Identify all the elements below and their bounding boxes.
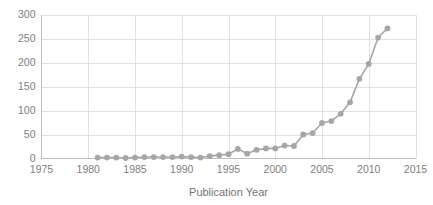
data-point: [310, 130, 316, 136]
data-point: [328, 118, 334, 124]
x-tick-label: 1995: [217, 163, 241, 175]
data-point: [95, 155, 101, 161]
data-point: [123, 155, 129, 161]
gridlines-vertical: [89, 15, 417, 159]
data-point: [104, 155, 110, 161]
x-tick-label: 1990: [170, 163, 194, 175]
data-point: [300, 132, 306, 138]
data-point: [235, 146, 241, 152]
line-chart: 050100150200250300 197519801985199019952…: [0, 0, 433, 205]
data-point: [366, 61, 372, 67]
x-tick-label: 1985: [123, 163, 147, 175]
data-point: [319, 120, 325, 126]
y-axis-tick-labels: 050100150200250300: [18, 8, 36, 164]
data-point: [170, 154, 176, 160]
y-tick-label: 50: [24, 128, 36, 140]
y-tick-label: 200: [18, 56, 36, 68]
y-tick-label: 150: [18, 80, 36, 92]
data-point: [113, 155, 119, 161]
x-axis-tick-labels: 197519801985199019952000200520102015: [30, 163, 428, 175]
data-point: [347, 99, 353, 105]
data-point: [216, 152, 222, 158]
gridlines-horizontal: [42, 16, 416, 136]
data-point: [141, 154, 147, 160]
data-point: [291, 143, 297, 149]
x-tick-label: 2005: [310, 163, 334, 175]
x-tick-label: 1975: [30, 163, 54, 175]
x-tick-label: 2000: [264, 163, 288, 175]
y-tick-label: 300: [18, 8, 36, 20]
data-point: [188, 154, 194, 160]
x-tick-label: 1980: [77, 163, 101, 175]
data-point: [179, 154, 185, 160]
x-axis-title: Publication Year: [189, 186, 268, 198]
x-tick-label: 2015: [404, 163, 428, 175]
data-point: [338, 111, 344, 117]
data-point: [357, 76, 363, 82]
data-point: [263, 146, 269, 152]
series-publications: [95, 26, 391, 161]
data-point: [198, 155, 204, 161]
data-point: [132, 155, 138, 161]
data-point: [226, 151, 232, 157]
y-tick-label: 250: [18, 32, 36, 44]
x-tick-label: 2010: [357, 163, 381, 175]
data-point: [244, 151, 250, 157]
series-line: [98, 28, 388, 158]
data-point: [254, 147, 260, 153]
chart-figure: 050100150200250300 197519801985199019952…: [0, 0, 433, 205]
data-point: [385, 26, 391, 32]
axis-lines: [42, 15, 416, 159]
data-point: [207, 153, 213, 159]
data-point: [160, 154, 166, 160]
y-tick-label: 100: [18, 104, 36, 116]
data-point: [151, 154, 157, 160]
data-point: [375, 35, 381, 41]
data-point: [282, 143, 288, 149]
data-point: [272, 146, 278, 152]
